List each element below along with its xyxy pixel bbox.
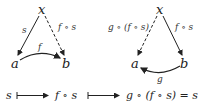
commutative-diagrams: x a b s f ∘ s f x a b g ∘ (f ∘ s) f ∘ s …	[0, 0, 203, 104]
label-f-left: f	[37, 42, 43, 52]
node-a-left: a	[11, 56, 19, 71]
node-x-left: x	[38, 2, 46, 17]
node-b-left: b	[62, 56, 70, 71]
label-fs-right: f ∘ s	[174, 22, 193, 32]
label-gfs-right: g ∘ (f ∘ s)	[108, 22, 149, 32]
term-fs: f ∘ s	[54, 89, 77, 102]
arrow-f-left	[20, 53, 60, 60]
label-s-left: s	[22, 25, 27, 35]
term-gfs-equals-s: g ∘ (f ∘ s) = s	[126, 89, 198, 102]
node-b-right: b	[180, 56, 188, 71]
mapping-row: s f ∘ s g ∘ (f ∘ s) = s	[6, 89, 198, 102]
arrow-g-right	[141, 66, 180, 73]
label-fs-left: f ∘ s	[57, 22, 76, 32]
node-a-right: a	[131, 56, 139, 71]
node-x-right: x	[156, 2, 164, 17]
left-diagram: x a b s f ∘ s f	[11, 2, 76, 71]
term-s: s	[6, 89, 12, 102]
right-diagram: x a b g ∘ (f ∘ s) f ∘ s g	[108, 2, 193, 84]
label-g-right: g	[157, 74, 163, 84]
arrow-s-left	[18, 16, 39, 55]
